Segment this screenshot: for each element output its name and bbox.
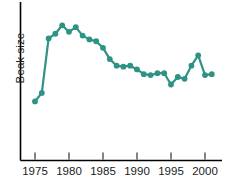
data-point	[209, 71, 215, 77]
data-point	[53, 31, 59, 37]
data-series-beak-size	[32, 22, 215, 104]
chart-axes	[21, 2, 223, 161]
data-point	[87, 36, 93, 42]
data-point	[59, 22, 65, 28]
data-point	[182, 76, 188, 82]
data-point	[46, 36, 52, 42]
data-point	[141, 71, 147, 77]
data-point	[127, 63, 133, 69]
y-axis-label: Beak size	[14, 10, 26, 106]
data-point	[32, 99, 38, 105]
data-point	[195, 52, 201, 58]
data-point	[202, 72, 208, 78]
chart-plot-area: 197519801985199019952000	[0, 0, 225, 193]
x-axis-ticks: 197519801985199019952000	[22, 153, 218, 177]
data-point	[114, 63, 120, 69]
x-tick-label: 1975	[22, 165, 48, 177]
data-point	[148, 72, 154, 78]
data-point	[80, 33, 86, 39]
data-point	[66, 29, 72, 35]
data-point	[73, 24, 79, 30]
x-tick-label: 1985	[90, 165, 116, 177]
data-point	[134, 67, 140, 73]
data-point	[39, 90, 45, 96]
data-point	[189, 63, 195, 69]
data-point	[121, 64, 127, 70]
chart-figure: Beak size 197519801985199019952000	[0, 0, 225, 193]
data-point	[168, 82, 174, 88]
data-point	[161, 70, 167, 76]
x-tick-label: 1980	[56, 165, 82, 177]
data-point	[93, 38, 99, 44]
data-point	[100, 45, 106, 51]
series-line-beak-size	[35, 25, 212, 101]
data-point	[155, 70, 161, 76]
x-tick-label: 2000	[192, 165, 218, 177]
x-tick-label: 1990	[124, 165, 150, 177]
x-tick-label: 1995	[158, 165, 184, 177]
data-point	[107, 56, 113, 62]
data-point	[175, 74, 181, 80]
